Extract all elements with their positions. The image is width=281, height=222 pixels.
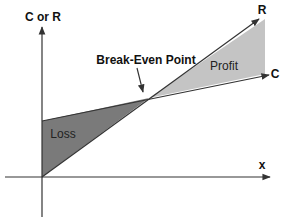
- profit-label: Profit: [210, 59, 239, 73]
- x-axis-label: x: [259, 158, 266, 172]
- break-even-label: Break-Even Point: [96, 53, 195, 67]
- cost-label: C: [271, 67, 280, 81]
- revenue-line: [42, 19, 259, 177]
- y-axis-label: C or R: [25, 10, 61, 24]
- revenue-label: R: [258, 3, 267, 17]
- cost-line: [42, 75, 269, 121]
- break-even-diagram: C or R x R C Break-Even Point Profit Los…: [0, 0, 281, 222]
- loss-label: Loss: [50, 127, 75, 141]
- diagram-canvas: C or R x R C Break-Even Point Profit Los…: [0, 0, 281, 222]
- break-even-pointer-arrow: [137, 68, 143, 92]
